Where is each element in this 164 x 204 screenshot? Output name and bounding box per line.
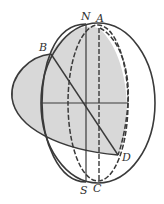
label-n: N: [80, 10, 91, 23]
shaded-region: [12, 27, 127, 155]
sphere-diagram: N A B D S C: [0, 0, 164, 204]
label-s: S: [80, 184, 88, 197]
label-a: A: [95, 12, 104, 25]
label-d: D: [121, 151, 131, 164]
label-c: C: [93, 182, 102, 195]
label-b: B: [38, 41, 47, 54]
